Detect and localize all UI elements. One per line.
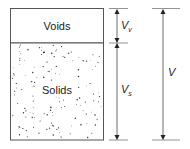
voids-volume-dimension <box>115 9 120 43</box>
soil-phase-diagram: Voids Solids Vv Vs V <box>0 0 190 149</box>
solids-volume-label: Vs <box>121 83 132 97</box>
voids-label: Voids <box>44 20 71 32</box>
solids-label: Solids <box>42 84 72 96</box>
phase-box: Voids Solids <box>11 9 104 141</box>
voids-volume-label: Vv <box>121 19 132 33</box>
total-volume-label: V <box>168 66 177 78</box>
total-volume-dimension <box>161 9 166 140</box>
solids-volume-dimension <box>115 43 120 140</box>
